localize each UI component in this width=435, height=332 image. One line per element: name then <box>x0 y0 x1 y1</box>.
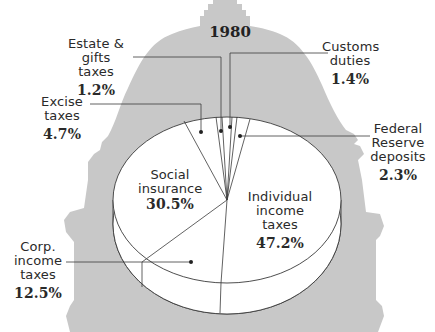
chart-title-year: 1980 <box>200 23 260 41</box>
label-federal-reserve-deposits: Federal Reserve deposits 2.3% <box>368 122 428 182</box>
label-corp-income-taxes: Corp. income taxes 12.5% <box>12 240 64 300</box>
label-estate-gifts-taxes: Estate & gifts taxes 1.2% <box>62 37 130 97</box>
label-social-insurance: Social insurance 30.5% <box>138 168 202 211</box>
label-excise-taxes: Excise taxes 4.7% <box>38 95 86 141</box>
chart-stage: 1980 Estate & gifts taxes 1.2% Customs d… <box>0 0 435 332</box>
label-customs-duties: Customs duties 1.4% <box>322 40 378 86</box>
label-individual-income-taxes: Individual income taxes 47.2% <box>238 190 322 250</box>
